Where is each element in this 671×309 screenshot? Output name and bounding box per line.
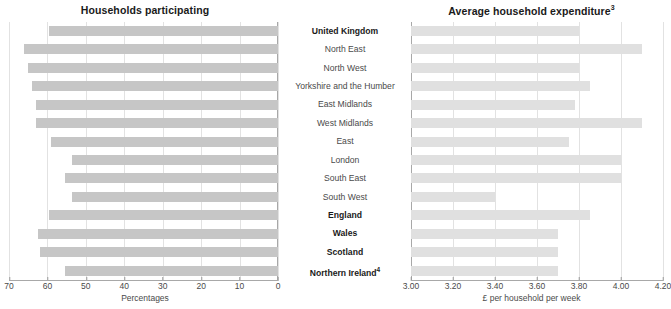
chart-row [411,243,663,261]
axis-tick-label: 4.00 [613,281,630,291]
bar [411,155,621,165]
bar [411,44,642,54]
left-chart-panel: Households participating Percentages 706… [0,0,290,309]
category-label: North West [290,63,400,73]
category-label: Yorkshire and the Humber [290,81,400,91]
bar [49,26,278,36]
bar [65,266,278,276]
chart-row [9,59,278,77]
gridline [663,22,664,280]
bar [411,26,579,36]
category-label-text: East [336,136,353,146]
chart-row [411,77,663,95]
category-label-text: South West [323,192,367,202]
bar [411,173,621,183]
chart-row [9,96,278,114]
chart-row [9,151,278,169]
category-label-text: Wales [333,228,358,238]
chart-row [9,225,278,243]
category-label: West Midlands [290,118,400,128]
bar [411,137,569,147]
bar [36,100,278,110]
bar [411,100,575,110]
category-label: Wales [290,228,400,238]
axis-tick-label: 3.00 [403,281,420,291]
chart-row [411,59,663,77]
chart-row [9,133,278,151]
category-label: South West [290,192,400,202]
right-chart-title-footnote: 3 [611,4,615,11]
category-label: Northern Ireland4 [290,265,400,278]
bar [49,210,278,220]
category-label-text: North West [324,63,367,73]
axis-tick-label: 3.40 [487,281,504,291]
chart-row [411,188,663,206]
bar [411,266,558,276]
right-axis-ticks: £ per household per week 3.003.203.403.6… [400,281,663,303]
axis-tick-label: 10 [235,281,244,291]
gridline [278,22,279,280]
left-chart-title: Households participating [0,4,290,16]
bar [411,118,642,128]
chart-row [411,206,663,224]
category-label: North East [290,44,400,54]
axis-tick-label: 20 [196,281,205,291]
chart-row [411,40,663,58]
axis-tick-label: 3.80 [571,281,588,291]
bar [32,81,278,91]
category-label-text: North East [325,44,366,54]
bar [411,63,579,73]
bar [65,173,278,183]
tick-mark [663,277,664,281]
category-label-text: Northern Ireland [310,268,377,278]
chart-row [9,77,278,95]
category-label-text: South East [324,173,366,183]
bar [51,137,278,147]
category-label-text: West Midlands [317,118,373,128]
chart-row [9,40,278,58]
category-label: South East [290,173,400,183]
chart-row [411,151,663,169]
axis-tick-label: 60 [43,281,52,291]
left-axis-ticks: Percentages 706050403020100 [0,281,290,303]
axis-tick-label: 70 [4,281,13,291]
chart-row [9,114,278,132]
category-label: London [290,155,400,165]
right-axis-caption: £ per household per week [400,293,663,303]
category-label: United Kingdom [290,26,400,36]
axis-tick-label: 4.20 [655,281,671,291]
category-label-text: London [331,155,360,165]
axis-tick-label: 3.60 [529,281,546,291]
chart-row [9,243,278,261]
axis-tick-label: 0 [276,281,281,291]
bar [411,247,558,257]
chart-row [411,133,663,151]
tick-mark [278,277,279,281]
axis-tick-label: 50 [81,281,90,291]
bar [411,229,558,239]
axis-tick-label: 30 [158,281,167,291]
chart-row [411,114,663,132]
category-label: Scotland [290,247,400,257]
axis-tick-label: 40 [120,281,129,291]
chart-row [411,22,663,40]
right-chart-panel: Average household expenditure3 £ per hou… [400,0,663,309]
bar [36,118,278,128]
bar [24,44,278,54]
left-plot-area [9,22,278,280]
right-plot-area [411,22,663,280]
category-label-footnote: 4 [377,266,381,273]
bar [411,210,590,220]
bar [72,155,278,165]
chart-row [9,206,278,224]
left-axis-caption: Percentages [0,293,290,303]
bar [38,229,278,239]
bar [40,247,278,257]
bar [411,81,590,91]
category-label: East [290,136,400,146]
chart-row [9,22,278,40]
chart-row [411,169,663,187]
category-labels: United KingdomNorth EastNorth WestYorksh… [290,22,400,280]
chart-row [9,188,278,206]
